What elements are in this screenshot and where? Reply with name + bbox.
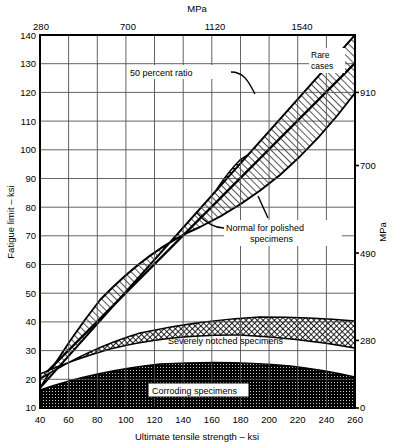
fatigue-limit-chart: MPa 280 700 1120 1540 — [0, 0, 395, 445]
y-tick-label: 30 — [25, 345, 36, 356]
y-right-tick-label: 700 — [360, 160, 376, 171]
y-tick-label: 70 — [25, 230, 36, 241]
top-tick-label: 1540 — [291, 21, 312, 32]
y-tick-label: 100 — [20, 144, 36, 155]
annotation-label-line1: Normal for polished — [226, 223, 304, 233]
top-tick-label: 700 — [120, 21, 136, 32]
y-tick-label: 140 — [20, 30, 36, 41]
y-tick-label: 20 — [25, 374, 36, 385]
x-tick-label: 160 — [204, 414, 220, 425]
x-tick-label: 240 — [318, 414, 334, 425]
y-tick-label: 60 — [25, 259, 36, 270]
x-tick-label: 200 — [261, 414, 277, 425]
x-tick-label: 180 — [233, 414, 249, 425]
x-tick-label: 80 — [92, 414, 103, 425]
x-tick-label: 260 — [347, 414, 363, 425]
y-axis-title: Fatigue limit – ksi — [5, 185, 16, 258]
x-tick-label: 40 — [35, 414, 46, 425]
y-right-tick-label: 910 — [360, 87, 376, 98]
x-tick-label: 100 — [118, 414, 134, 425]
y-right-axis-title: MPa — [377, 222, 388, 242]
y-right-tick-label: 0 — [360, 402, 365, 413]
x-axis-title: Ultimate tensile strength – ksi — [135, 431, 259, 442]
chart-canvas: MPa 280 700 1120 1540 — [0, 0, 395, 445]
annotation-label-line2: cases — [311, 61, 333, 71]
y-tick-label: 130 — [20, 58, 36, 69]
annotation-corroding: Corroding specimens — [148, 383, 249, 397]
y-tick-label: 90 — [25, 173, 36, 184]
annotation-label-line1: Rare — [311, 50, 330, 60]
y-tick-label: 120 — [20, 87, 36, 98]
annotation-label: 50 percent ratio — [130, 68, 193, 78]
x-tick-label: 140 — [175, 414, 191, 425]
y-tick-label: 40 — [25, 316, 36, 327]
annotation-rare-cases: Rare cases — [309, 48, 345, 73]
top-tick-label: 1120 — [205, 21, 225, 32]
annotation-label-line2: specimens — [250, 234, 294, 244]
y-tick-label: 80 — [25, 202, 36, 213]
y-right-tick-label: 280 — [360, 335, 376, 346]
y-right-tick-label: 490 — [360, 248, 376, 259]
x-tick-label: 120 — [147, 414, 163, 425]
x-tick-label: 220 — [290, 414, 306, 425]
annotation-label: Corroding specimens — [152, 386, 238, 396]
y-tick-label: 50 — [25, 288, 36, 299]
annotation-severely-notched: Severely notched specimens — [168, 336, 284, 346]
y-tick-label: 10 — [25, 402, 36, 413]
annotation-label: Severely notched specimens — [168, 336, 284, 346]
top-axis-title: MPa — [187, 3, 207, 14]
x-tick-label: 60 — [63, 414, 74, 425]
y-tick-label: 110 — [21, 116, 36, 127]
